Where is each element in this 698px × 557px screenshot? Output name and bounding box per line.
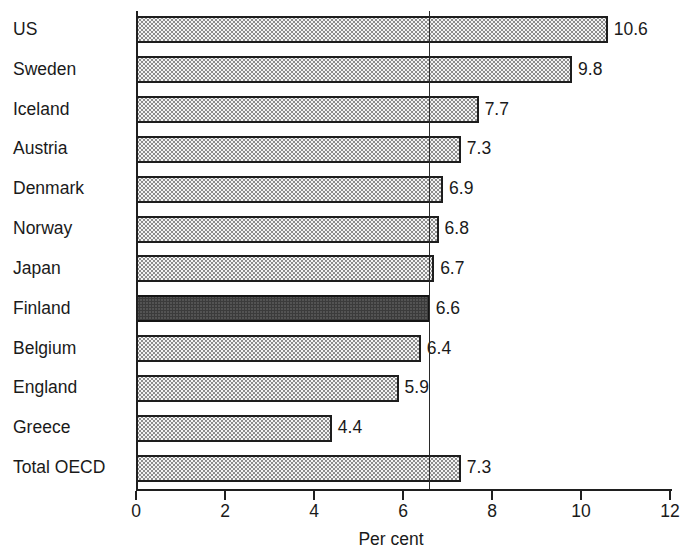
x-tick-label-6: 6 bbox=[398, 503, 408, 521]
x-tick-8 bbox=[491, 491, 493, 500]
category-label-norway: Norway bbox=[13, 220, 128, 238]
category-label-total-oecd: Total OECD bbox=[13, 459, 128, 477]
value-label-us: 10.6 bbox=[614, 21, 648, 39]
x-axis-title-text: Per cent bbox=[358, 529, 423, 549]
bar-total-oecd bbox=[136, 455, 461, 482]
x-tick-label-4: 4 bbox=[309, 503, 319, 521]
reference-line-6-6 bbox=[429, 11, 431, 491]
value-label-sweden: 9.8 bbox=[578, 61, 602, 79]
x-tick-10 bbox=[580, 491, 582, 500]
category-label-us: US bbox=[13, 21, 128, 39]
bar-finland bbox=[136, 295, 430, 322]
bar-austria bbox=[136, 136, 461, 163]
category-label-sweden: Sweden bbox=[13, 61, 128, 79]
value-label-finland: 6.6 bbox=[436, 300, 460, 318]
bar-norway bbox=[136, 216, 439, 243]
value-label-england: 5.9 bbox=[405, 379, 429, 397]
x-tick-label-2: 2 bbox=[220, 503, 230, 521]
bar-iceland bbox=[136, 96, 479, 123]
value-label-denmark: 6.9 bbox=[449, 180, 473, 198]
x-tick-0 bbox=[135, 491, 137, 500]
x-axis-title: Per cent bbox=[0, 531, 698, 549]
bar-sweden bbox=[136, 56, 572, 83]
x-axis-line bbox=[136, 489, 672, 491]
bar-chart: US Sweden Iceland Austria Denmark Norway… bbox=[0, 0, 698, 557]
x-tick-label-10: 10 bbox=[571, 503, 590, 521]
category-label-denmark: Denmark bbox=[13, 180, 128, 198]
bar-denmark bbox=[136, 176, 443, 203]
value-label-total-oecd: 7.3 bbox=[467, 459, 491, 477]
category-label-england: England bbox=[13, 379, 128, 397]
value-label-austria: 7.3 bbox=[467, 140, 491, 158]
y-axis-line bbox=[136, 11, 138, 491]
value-label-iceland: 7.7 bbox=[485, 101, 509, 119]
value-label-greece: 4.4 bbox=[338, 419, 362, 437]
bar-us bbox=[136, 16, 608, 43]
category-label-japan: Japan bbox=[13, 260, 128, 278]
category-label-finland: Finland bbox=[13, 300, 128, 318]
bar-japan bbox=[136, 255, 434, 282]
x-tick-4 bbox=[313, 491, 315, 500]
bar-belgium bbox=[136, 335, 421, 362]
x-tick-label-8: 8 bbox=[487, 503, 497, 521]
x-tick-6 bbox=[402, 491, 404, 500]
x-tick-label-12: 12 bbox=[660, 503, 679, 521]
category-label-belgium: Belgium bbox=[13, 340, 128, 358]
bar-england bbox=[136, 375, 399, 402]
value-label-japan: 6.7 bbox=[440, 260, 464, 278]
value-label-norway: 6.8 bbox=[445, 220, 469, 238]
x-tick-12 bbox=[669, 491, 671, 500]
category-label-iceland: Iceland bbox=[13, 101, 128, 119]
category-label-austria: Austria bbox=[13, 140, 128, 158]
bar-greece bbox=[136, 415, 332, 442]
x-tick-2 bbox=[224, 491, 226, 500]
x-tick-label-0: 0 bbox=[131, 503, 141, 521]
category-label-greece: Greece bbox=[13, 419, 128, 437]
